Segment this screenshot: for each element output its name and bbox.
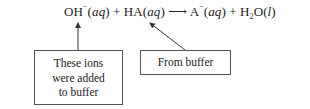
label-line: were added xyxy=(35,71,122,86)
buffer-reaction-diagram: OH−(aq) + HA(aq) ⟶ A−(aq) + H2O(l) These… xyxy=(0,0,310,109)
label-line: From buffer xyxy=(141,55,230,70)
arrow-to-weak-acid-icon xyxy=(150,23,185,50)
label-line: These ions xyxy=(35,56,122,71)
label-line: to buffer xyxy=(35,85,122,100)
from-buffer-label-box: From buffer xyxy=(140,50,231,75)
added-ions-label-box: These ions were added to buffer xyxy=(34,50,123,105)
